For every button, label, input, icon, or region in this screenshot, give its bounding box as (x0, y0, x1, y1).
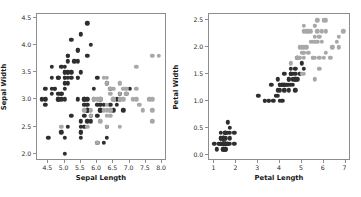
data-point (282, 88, 286, 92)
data-point (337, 45, 341, 49)
data-point (101, 141, 105, 145)
data-point (88, 119, 92, 123)
y-tick-mark (33, 153, 36, 154)
data-point (88, 43, 92, 47)
data-point (79, 70, 83, 74)
data-point (317, 34, 321, 38)
data-point (59, 92, 63, 96)
y-tick-label: 2.0 (184, 43, 203, 50)
data-point (228, 136, 232, 140)
data-point (317, 67, 321, 71)
data-point (330, 45, 334, 49)
data-point (308, 29, 312, 33)
data-point (69, 114, 73, 118)
data-point (85, 124, 89, 128)
x-tick-label: 4.5 (43, 164, 53, 171)
data-point (134, 86, 138, 90)
y-tick-mark (205, 73, 208, 74)
data-point (302, 67, 306, 71)
data-point (293, 88, 297, 92)
data-point (105, 135, 109, 139)
data-point (69, 70, 73, 74)
x-tick-mark (64, 160, 65, 163)
data-point (118, 124, 122, 128)
x-tick-mark (257, 160, 258, 163)
data-point (300, 61, 304, 65)
data-point (134, 65, 138, 69)
data-point (319, 40, 323, 44)
data-point (92, 86, 96, 90)
y-tick-mark (33, 126, 36, 127)
data-point (337, 34, 341, 38)
x-tick-mark (112, 160, 113, 163)
y-tick-mark (205, 127, 208, 128)
data-point (302, 24, 306, 28)
data-point (46, 135, 50, 139)
data-point (335, 40, 339, 44)
data-point (62, 135, 66, 139)
y-tick-label: 3.5 (12, 68, 31, 75)
data-point (105, 81, 109, 85)
data-point (62, 152, 66, 156)
data-point (228, 126, 232, 130)
data-point (85, 54, 89, 58)
y-axis-title-sepal-width: Sepal Width (0, 63, 8, 109)
data-point (280, 99, 284, 103)
y-tick-label: 0.5 (184, 123, 203, 130)
x-tick-label: 8.0 (156, 164, 166, 171)
data-point (49, 92, 53, 96)
data-point (302, 72, 306, 76)
x-tick-label: 6 (321, 164, 325, 171)
data-point (287, 88, 291, 92)
x-tick-label: 5.0 (59, 164, 69, 171)
x-tick-label: 5.5 (75, 164, 85, 171)
data-point (137, 103, 141, 107)
data-point (291, 83, 295, 87)
data-point (315, 18, 319, 22)
y-tick-mark (33, 44, 36, 45)
data-point (271, 99, 275, 103)
data-point (82, 114, 86, 118)
data-point (75, 97, 79, 101)
data-point (289, 67, 293, 71)
y-tick-mark (33, 17, 36, 18)
x-tick-mark (235, 160, 236, 163)
scatter-panel-petal: 12345670.00.51.01.52.02.5 Petal Length P… (181, 0, 361, 197)
x-tick-label: 2 (233, 164, 237, 171)
data-point (289, 61, 293, 65)
y-tick-label: 4.5 (12, 13, 31, 20)
y-tick-label: 2.0 (12, 149, 31, 156)
data-point (66, 59, 70, 63)
data-point (306, 50, 310, 54)
data-point (328, 56, 332, 60)
x-tick-label: 6.5 (108, 164, 118, 171)
data-point (49, 65, 53, 69)
data-point (150, 108, 154, 112)
y-tick-mark (205, 100, 208, 101)
data-point (43, 97, 47, 101)
x-tick-label: 7 (343, 164, 347, 171)
data-point (293, 72, 297, 76)
data-points-petal (209, 14, 349, 159)
data-point (293, 67, 297, 71)
data-point (232, 131, 236, 135)
x-tick-mark (279, 160, 280, 163)
iris-scatter-figure: 4.55.05.56.06.57.07.58.02.02.53.03.54.04… (0, 0, 361, 197)
data-point (304, 45, 308, 49)
y-tick-label: 4.0 (12, 41, 31, 48)
data-point (324, 50, 328, 54)
x-tick-label: 7.0 (124, 164, 134, 171)
data-points-sepal (37, 14, 165, 159)
y-axis-title-petal-width: Petal Width (172, 64, 180, 109)
data-point (95, 114, 99, 118)
data-point (276, 77, 280, 81)
data-point (43, 103, 47, 107)
x-tick-label: 6.0 (91, 164, 101, 171)
x-tick-mark (129, 160, 130, 163)
x-tick-mark (301, 160, 302, 163)
data-point (124, 92, 128, 96)
data-point (88, 108, 92, 112)
data-point (79, 119, 83, 123)
x-tick-label: 7.5 (140, 164, 150, 171)
data-point (321, 56, 325, 60)
